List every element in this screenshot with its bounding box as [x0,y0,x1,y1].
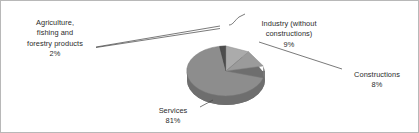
leader-line-agriculture-tick [96,29,220,48]
pie-label-industry-text: Industry (without constructions) [261,19,316,38]
pie-label-constructions-text: Constructions [354,70,400,79]
pie-label-agriculture-percent: 2% [5,49,105,59]
pie-label-services-percent: 81% [143,116,203,126]
pie-label-agriculture: Agriculture, fishing and forestry produc… [5,8,105,69]
pie-label-constructions-percent: 8% [337,80,417,90]
pie-label-constructions: Constructions 8% [337,60,417,101]
leader-line-agriculture [96,26,220,47]
pie-label-services-text: Services [159,106,188,115]
pie-chart-figure: Agriculture, fishing and forestry produc… [0,0,419,133]
pie-label-agriculture-text: Agriculture, fishing and forestry produc… [27,18,83,47]
pie-label-industry-percent: 9% [241,40,337,50]
pie-label-industry: Industry (without constructions) 9% [241,9,337,60]
pie-label-services: Services 81% [143,96,203,133]
